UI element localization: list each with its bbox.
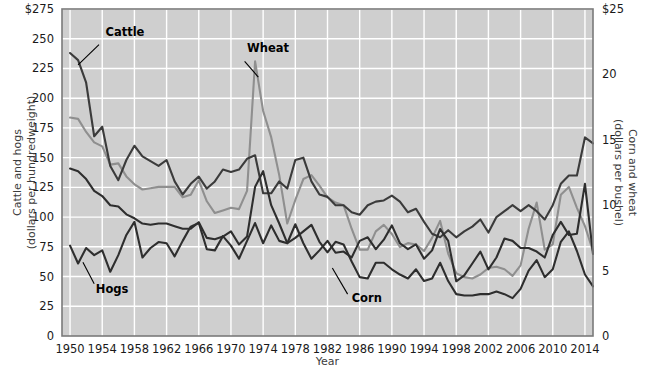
y-tick-label-right: 0 [602, 329, 609, 343]
x-tick-label: 1958 [120, 342, 149, 356]
x-tick-label: 1966 [184, 342, 213, 356]
series-label-hogs: Hogs [96, 282, 129, 296]
y-tick-label-left: 0 [47, 329, 54, 343]
agriculture-price-chart: 1950195419581962196619701974197819821986… [0, 0, 648, 371]
y-tick-label-left: 25 [39, 299, 54, 313]
x-tick-label: 1990 [377, 342, 406, 356]
x-tick-label: 1978 [281, 342, 310, 356]
y-tick-label-left: 225 [32, 61, 54, 75]
x-tick-label: 1970 [216, 342, 245, 356]
x-tick-label: 2010 [538, 342, 567, 356]
y-axis-title-right: Corn and wheat(dollars per bushel) [612, 119, 639, 226]
y-tick-label-left: 50 [39, 270, 54, 284]
x-tick-label: 1954 [88, 342, 117, 356]
x-tick-label: 1982 [313, 342, 342, 356]
x-tick-label: 1950 [55, 342, 84, 356]
series-label-corn: Corn [352, 291, 382, 305]
x-tick-label: 1986 [345, 342, 374, 356]
x-axis-ticks: 1950195419581962196619701974197819821986… [55, 342, 599, 356]
chart-canvas: 1950195419581962196619701974197819821986… [0, 0, 648, 371]
y-tick-label-right: 5 [602, 264, 609, 278]
x-tick-label: 2002 [474, 342, 503, 356]
y-tick-label-right: 20 [602, 67, 617, 81]
x-tick-label: 1994 [409, 342, 438, 356]
y-tick-label-left: 75 [39, 240, 54, 254]
x-tick-label: 1962 [152, 342, 181, 356]
x-axis-title: Year [315, 355, 340, 368]
series-label-cattle: Cattle [105, 25, 144, 39]
series-label-wheat: Wheat [247, 41, 289, 55]
x-tick-label: 1974 [248, 342, 277, 356]
x-tick-label: 1998 [442, 342, 471, 356]
y-tick-label-left: 250 [32, 32, 54, 46]
x-tick-label: 2006 [506, 342, 535, 356]
x-tick-label: 2014 [570, 342, 599, 356]
y-tick-label-left: $275 [25, 2, 54, 16]
y-tick-label-right: $25 [602, 2, 624, 16]
